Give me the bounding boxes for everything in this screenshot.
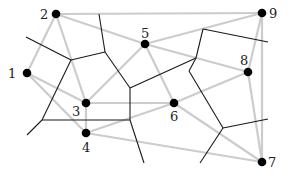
voronoi-edge bbox=[105, 52, 130, 88]
voronoi-edge bbox=[42, 60, 71, 120]
voronoi-edge bbox=[99, 14, 105, 52]
site-point-9 bbox=[258, 9, 267, 18]
site-point-2 bbox=[52, 10, 61, 19]
voronoi-edge bbox=[27, 120, 42, 135]
site-label-1: 1 bbox=[8, 66, 16, 81]
delaunay-edge-2-9 bbox=[56, 13, 262, 14]
delaunay-edge-6-7 bbox=[174, 103, 262, 162]
site-label-4: 4 bbox=[82, 140, 90, 155]
delaunay-edge-4-7 bbox=[86, 133, 262, 162]
delaunay-edge-6-8 bbox=[174, 72, 248, 103]
site-label-9: 9 bbox=[269, 6, 277, 21]
site-point-4 bbox=[82, 129, 91, 138]
site-label-3: 3 bbox=[72, 104, 80, 119]
site-label-6: 6 bbox=[170, 109, 178, 124]
delaunay-edge-1-2 bbox=[27, 14, 56, 73]
delaunay-edge-5-9 bbox=[145, 13, 262, 44]
voronoi-edge bbox=[189, 71, 223, 128]
site-point-8 bbox=[244, 68, 253, 77]
site-point-6 bbox=[170, 99, 179, 108]
voronoi-edge bbox=[196, 29, 203, 58]
delaunay-edge-8-9 bbox=[248, 13, 262, 72]
voronoi-edge bbox=[71, 52, 105, 60]
delaunay-edge-2-5 bbox=[56, 14, 145, 44]
delaunay-edge-3-5 bbox=[86, 44, 145, 103]
site-label-2: 2 bbox=[40, 7, 48, 22]
delaunay-edge-1-4 bbox=[27, 73, 86, 133]
site-point-1 bbox=[23, 69, 32, 78]
voronoi-delaunay-diagram: 123456789 bbox=[0, 0, 291, 177]
site-label-5: 5 bbox=[141, 26, 149, 41]
site-point-7 bbox=[258, 158, 267, 167]
delaunay-edge-8-7 bbox=[248, 72, 262, 162]
site-point-3 bbox=[82, 99, 91, 108]
voronoi-edge bbox=[130, 58, 196, 88]
site-label-8: 8 bbox=[240, 53, 248, 68]
site-label-7: 7 bbox=[268, 155, 276, 170]
voronoi-edge bbox=[200, 128, 223, 163]
delaunay-edge-5-6 bbox=[145, 44, 174, 103]
